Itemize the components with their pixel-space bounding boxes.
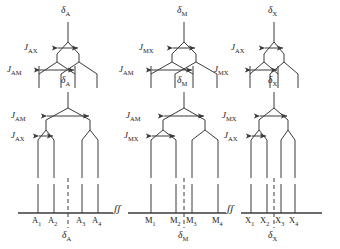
peak-label-a4: A4 [92,216,101,227]
panel-a-spectrum [38,178,98,228]
axis-break-symbol-left: ʃʃ [114,203,120,214]
peak-label-a2: A2 [48,216,57,227]
panel-m-top-delta-label: δM [177,6,187,17]
panel-x-jax-bottom-label: JAX [224,131,237,142]
peak-label-m2: M2 [170,216,181,227]
panel-a-mid-delta-label: δA [61,76,70,87]
peak-label-m4: M4 [212,216,223,227]
peak-label-m3: M3 [186,216,197,227]
panel-x-mid-delta-label: δX [268,76,277,87]
axis-break-symbol-right: ʃʃ [227,203,233,214]
panel-x-bottom-tree [251,92,295,178]
panel-m-jmx-bottom-label: JMX [124,131,138,142]
panel-m-spectrum [151,178,218,228]
panel-a-jax-top-label: JAX [24,43,37,54]
panel-a-top-delta-label: δA [61,6,70,17]
panel-m-mid-delta-label: δM [177,76,187,87]
panel-x-top-delta-label: δX [268,6,277,17]
panel-a-axis-delta-label: δA [62,231,71,242]
panel-m-axis-delta-label: δM [178,231,188,242]
panel-m-jam-bottom-label: JAM [126,111,140,122]
peak-label-m1: M1 [145,216,156,227]
panel-x-jax-top-label: JAX [231,43,244,54]
panel-a-bottom-tree [38,92,98,178]
peak-label-a3: A3 [76,216,85,227]
panel-m-jam-top-label: JAM [119,65,133,76]
panel-x-axis-delta-label: δX [268,231,277,242]
peak-label-x2: X2 [260,216,269,227]
peak-label-x4: X4 [289,216,298,227]
panel-x-jmx-bottom-label: JMX [222,111,236,122]
panel-m-jmx-top-label: JMX [139,43,153,54]
panel-a-jam-top-label: JAM [7,65,21,76]
peak-label-x3: X3 [275,216,284,227]
panel-a-jax-bottom-label: JAX [11,131,24,142]
nmr-splitting-tree-figure [0,0,340,249]
peak-label-a1: A1 [32,216,41,227]
panel-a-jam-bottom-label: JAM [11,111,25,122]
peak-label-x1: X1 [245,216,254,227]
panel-m-bottom-tree [151,92,218,178]
panel-x-jmx-top-label: JMX [214,65,228,76]
